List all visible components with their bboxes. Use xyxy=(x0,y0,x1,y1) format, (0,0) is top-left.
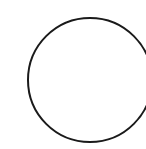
circle-outline xyxy=(28,18,146,142)
circle-outline-icon xyxy=(0,0,146,149)
drawing-canvas xyxy=(0,0,146,149)
